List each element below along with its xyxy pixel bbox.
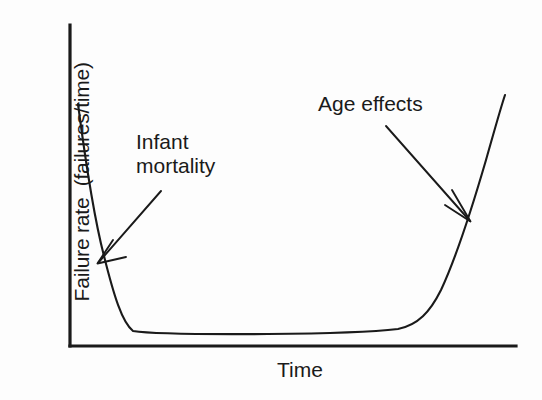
infant-mortality-line-2: mortality bbox=[136, 154, 215, 177]
bathtub-curve-figure: Failure rate (failures/time) Time Infant… bbox=[0, 0, 542, 400]
age-effects-annotation: Age effects bbox=[318, 92, 423, 116]
infant-mortality-line-1: Infant bbox=[136, 130, 189, 153]
infant-mortality-arrow-shaft bbox=[98, 191, 161, 263]
age-effects-arrow-shaft bbox=[386, 126, 470, 221]
infant-mortality-annotation: Infantmortality bbox=[136, 130, 215, 177]
y-axis-label: Failure rate (failures/time) bbox=[70, 32, 94, 332]
x-axis-label: Time bbox=[230, 358, 370, 382]
